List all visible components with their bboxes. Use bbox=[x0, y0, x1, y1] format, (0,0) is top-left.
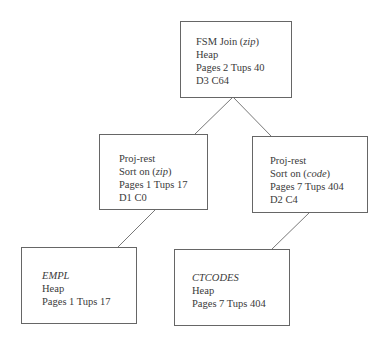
node-line: Heap bbox=[192, 284, 266, 297]
node-line: Pages 7 Tups 404 bbox=[270, 180, 344, 193]
node-line: Pages 1 Tups 17 bbox=[42, 295, 111, 308]
node-line: Heap bbox=[196, 48, 265, 61]
node-line: Proj-rest bbox=[270, 154, 344, 167]
node-line: Pages 7 Tups 404 bbox=[192, 297, 266, 310]
node-empl: EMPL Heap Pages 1 Tups 17 bbox=[21, 247, 137, 324]
node-line: D2 C4 bbox=[270, 193, 344, 206]
node-line: EMPL bbox=[42, 269, 111, 282]
node-fsm-join: FSM Join (zip) Heap Pages 2 Tups 40 D3 C… bbox=[180, 21, 292, 98]
node-line: Sort on (zip) bbox=[119, 165, 188, 178]
node-line: D1 C0 bbox=[119, 191, 188, 204]
node-proj-rest-code: Proj-rest Sort on (code) Pages 7 Tups 40… bbox=[252, 136, 368, 213]
node-line: Pages 1 Tups 17 bbox=[119, 178, 188, 191]
node-ctcodes: CTCODES Heap Pages 7 Tups 404 bbox=[174, 249, 290, 326]
node-line: CTCODES bbox=[192, 271, 266, 284]
node-line: D3 C64 bbox=[196, 74, 265, 87]
node-line: FSM Join (zip) bbox=[196, 35, 265, 48]
node-line: Pages 2 Tups 40 bbox=[196, 61, 265, 74]
edge-proj-left-empl bbox=[118, 209, 156, 247]
edge-join-proj-left bbox=[195, 97, 233, 134]
node-line: Proj-rest bbox=[119, 152, 188, 165]
node-line: Heap bbox=[42, 282, 111, 295]
node-proj-rest-zip: Proj-rest Sort on (zip) Pages 1 Tups 17 … bbox=[99, 134, 208, 210]
edge-proj-right-ctcodes bbox=[272, 212, 310, 249]
edge-join-proj-right bbox=[233, 97, 271, 136]
node-line: Sort on (code) bbox=[270, 167, 344, 180]
